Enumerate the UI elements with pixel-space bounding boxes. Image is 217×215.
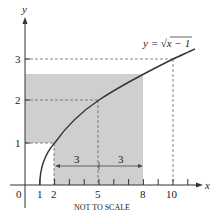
function-label: y = √x − 1 — [142, 37, 190, 49]
y-axis-label: y — [21, 3, 27, 15]
origin-label: 0 — [16, 188, 22, 200]
shaded-region — [25, 74, 143, 185]
x-tick-label-10: 10 — [166, 188, 178, 200]
diagram-canvas: y x 3 2 1 0 1 2 5 8 10 3 3 y = √x − 1 NO… — [0, 0, 217, 215]
interval-label-right: 3 — [118, 153, 124, 165]
y-axis-arrow-icon — [23, 17, 28, 24]
x-tick-label-5: 5 — [95, 188, 101, 200]
x-tick-label-1: 1 — [37, 188, 43, 200]
y-tick-label-1: 1 — [15, 137, 21, 149]
x-axis-label: x — [204, 179, 210, 191]
function-label-radicand: x − 1 — [166, 37, 190, 49]
interval-label-left: 3 — [74, 153, 80, 165]
y-tick-label-2: 2 — [15, 94, 21, 106]
y-tick-label-3: 3 — [15, 53, 21, 65]
x-tick-label-2: 2 — [51, 188, 57, 200]
x-tick-label-8: 8 — [140, 188, 146, 200]
function-label-lhs: y = — [142, 37, 161, 49]
x-axis-arrow-icon — [196, 183, 203, 188]
caption: NOT TO SCALE — [74, 203, 130, 212]
